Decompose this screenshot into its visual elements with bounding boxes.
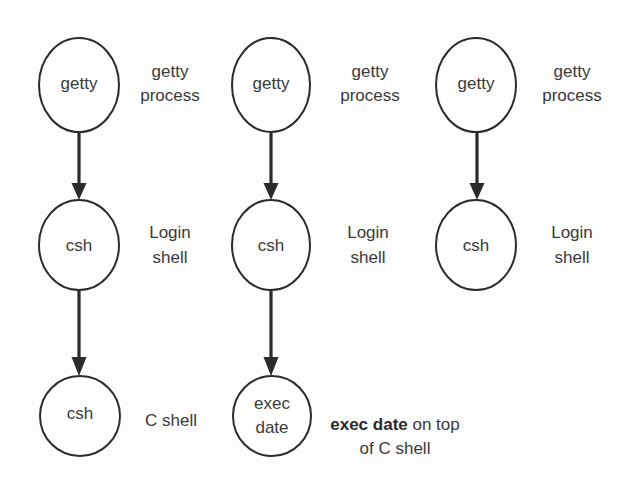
node-label-c1-csh-login: csh bbox=[66, 234, 92, 258]
annotation-c2-exec-date-bold: exec date bbox=[330, 415, 408, 434]
annotation-c2-getty-line1: getty bbox=[352, 60, 389, 84]
annotation-c3-login-line2: shell bbox=[555, 246, 590, 270]
annotation-c1-login-line2: shell bbox=[153, 246, 188, 270]
annotation-c2-login-line1: Login bbox=[347, 221, 389, 245]
annotation-c3-getty-line2: process bbox=[542, 84, 602, 108]
node-label-c2-date: date bbox=[255, 416, 288, 440]
annotation-c2-getty-line2: process bbox=[340, 84, 400, 108]
edge-c1-getty-to-csh bbox=[72, 133, 87, 200]
node-label-c2-exec: exec bbox=[254, 392, 290, 416]
annotation-c2-exec-date-line1: exec date on top bbox=[330, 413, 460, 437]
node-label-c2-getty: getty bbox=[253, 72, 290, 96]
annotation-c1-getty-line1: getty bbox=[152, 60, 189, 84]
node-label-c1-csh: csh bbox=[67, 402, 93, 426]
annotation-c1-cshell: C shell bbox=[145, 409, 197, 433]
annotation-c1-login-line1: Login bbox=[149, 221, 191, 245]
edge-c3-getty-to-csh bbox=[470, 133, 485, 200]
node-label-c3-csh-login: csh bbox=[463, 234, 489, 258]
annotation-c2-exec-date-rest: on top bbox=[408, 415, 460, 434]
edge-c2-getty-to-csh bbox=[264, 133, 279, 200]
node-label-c1-getty: getty bbox=[61, 72, 98, 96]
edge-c2-csh-to-exec-date bbox=[264, 290, 279, 376]
annotation-c3-login-line1: Login bbox=[551, 221, 593, 245]
diagram-canvas: getty csh csh getty csh exec date getty … bbox=[0, 0, 628, 485]
annotation-c2-exec-date-line2: of C shell bbox=[360, 437, 431, 461]
node-label-c2-csh-login: csh bbox=[258, 234, 284, 258]
node-label-c3-getty: getty bbox=[458, 72, 495, 96]
annotation-c1-getty-line2: process bbox=[140, 84, 200, 108]
edge-c1-csh-to-csh bbox=[72, 290, 87, 376]
annotation-c3-getty-line1: getty bbox=[554, 60, 591, 84]
annotation-c2-login-line2: shell bbox=[351, 246, 386, 270]
